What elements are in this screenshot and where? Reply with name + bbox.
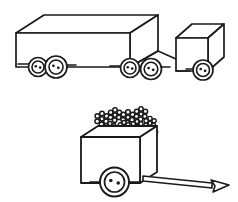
- wheel: [45, 56, 67, 78]
- flower-petal: [100, 111, 105, 116]
- wheel-rim: [32, 61, 44, 73]
- wheel-hub-dot: [39, 66, 42, 69]
- flower-petal: [95, 119, 100, 124]
- flower: [108, 108, 121, 123]
- cart-side-face: [140, 126, 157, 183]
- trailer-to-cab-link: [158, 51, 176, 59]
- flower-petal: [95, 114, 100, 119]
- wheel-hub-dot: [131, 67, 134, 70]
- wheel-hub-dot: [109, 179, 113, 183]
- flower-petal: [109, 110, 113, 114]
- wheel-rim: [49, 60, 63, 74]
- flower-center: [139, 112, 143, 116]
- wheel-rim: [144, 62, 158, 76]
- wheel-hub-dot: [199, 68, 202, 71]
- wheel-hub-dot: [204, 69, 207, 72]
- tow-hitch-end: [211, 180, 229, 192]
- wheel-rim: [105, 172, 125, 192]
- semi-truck: [16, 15, 224, 80]
- flower-petal: [143, 109, 147, 113]
- wheel-hub-dot: [152, 68, 155, 71]
- wheel-rim: [197, 64, 210, 77]
- flower-petal: [134, 114, 138, 118]
- flower-center: [148, 121, 152, 125]
- line-drawing-svg: [0, 0, 238, 202]
- wheel-hub-dot: [57, 66, 60, 69]
- flower-petal: [152, 119, 156, 123]
- wheel-hub-dot: [127, 66, 130, 69]
- flower-cart: [81, 107, 229, 197]
- flower-petal: [108, 115, 112, 119]
- flower-petal: [135, 109, 139, 113]
- flower-center: [113, 113, 117, 117]
- drawing-canvas: [0, 0, 238, 202]
- flower-petal: [144, 119, 148, 123]
- wheel-hub-dot: [35, 65, 38, 68]
- wheel-rim: [124, 62, 136, 74]
- wheel-hub-dot: [116, 181, 120, 185]
- wheel: [121, 59, 140, 78]
- flower-center: [100, 117, 104, 121]
- tow-handle-bar: [143, 176, 212, 188]
- wheel-hub-dot: [52, 64, 55, 67]
- flower-center: [126, 115, 130, 119]
- tow-handle: [143, 176, 229, 192]
- flower-petal: [126, 110, 131, 115]
- flower-petal: [121, 112, 126, 117]
- wheel-hub-dot: [147, 67, 150, 70]
- wheel: [141, 59, 162, 80]
